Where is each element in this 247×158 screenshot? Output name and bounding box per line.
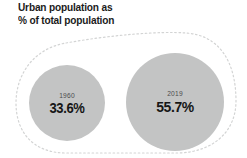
bubble-2019-year: 2019 (128, 90, 221, 98)
bubble-1960: 1960 33.6% (29, 65, 105, 141)
chart-title: Urban population as % of total populatio… (18, 1, 218, 27)
chart-title-line-1: Urban population as (18, 1, 202, 14)
urban-population-infographic: Urban population as % of total populatio… (0, 0, 247, 158)
bubble-1960-value: 33.6% (32, 101, 103, 116)
chart-title-line-2: % of total population (18, 14, 202, 27)
bubble-2019-labels: 2019 55.7% (126, 90, 224, 114)
bubble-2019: 2019 55.7% (126, 53, 224, 151)
bubble-1960-year: 1960 (31, 92, 103, 100)
bubble-1960-labels: 1960 33.6% (29, 92, 105, 116)
bubble-2019-value: 55.7% (129, 99, 220, 114)
